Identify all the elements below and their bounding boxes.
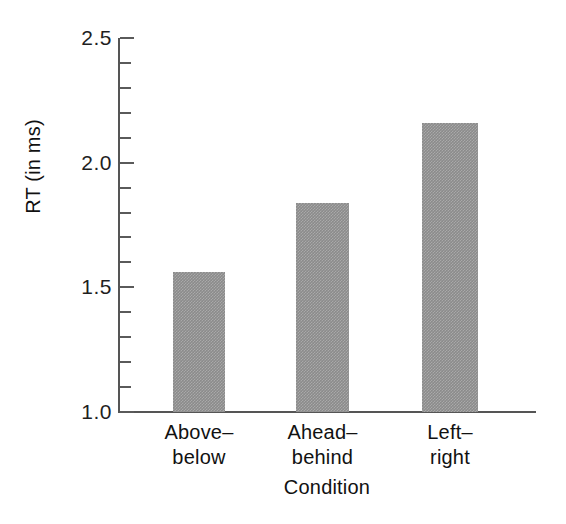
bar-chart-figure: 1.01.52.02.5 Above–belowAhead–behindLeft… xyxy=(0,0,566,524)
bar xyxy=(296,203,349,412)
bar xyxy=(173,272,225,412)
category-label-line2: right xyxy=(370,445,530,470)
x-axis-category-label: Left–right xyxy=(370,420,530,470)
category-label-line1: Left– xyxy=(370,420,530,445)
x-axis-title: Condition xyxy=(118,476,536,499)
bar xyxy=(422,123,478,412)
y-axis-title: RT (in ms) xyxy=(22,92,45,242)
